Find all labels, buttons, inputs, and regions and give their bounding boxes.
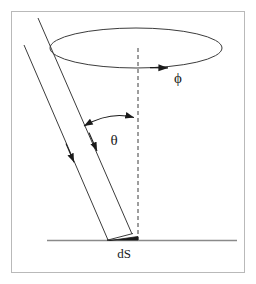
figure-frame [12, 12, 245, 273]
diagram-canvas: ϕ θ dS [0, 0, 256, 284]
phi-label: ϕ [174, 70, 182, 86]
ds-label: dS [117, 246, 131, 261]
theta-label: θ [110, 132, 117, 148]
solid-angle-diagram: ϕ θ dS [0, 0, 256, 284]
